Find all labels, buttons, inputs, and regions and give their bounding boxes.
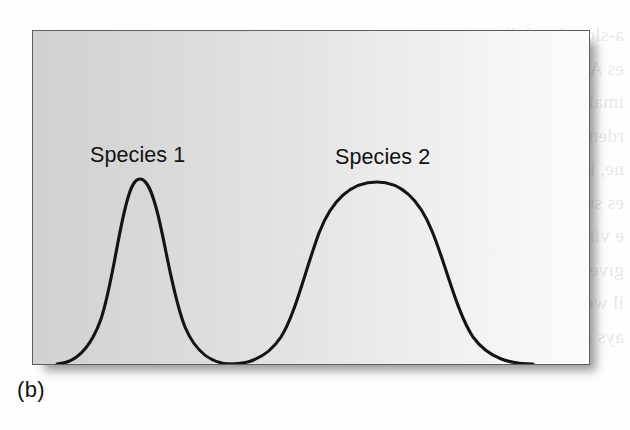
scanned-page-background: a-slow-level disease, es AIDS. Other hum… — [0, 0, 630, 430]
species-1-curve — [57, 179, 231, 364]
species-2-curve — [231, 182, 533, 364]
species-2-label: Species 2 — [335, 147, 430, 169]
resource-utilization-curves-panel: Species 1 Species 2 — [32, 30, 590, 365]
figure-caption: (b) — [17, 379, 45, 401]
species-curves-plot — [33, 31, 590, 365]
species-1-label: Species 1 — [90, 145, 185, 167]
